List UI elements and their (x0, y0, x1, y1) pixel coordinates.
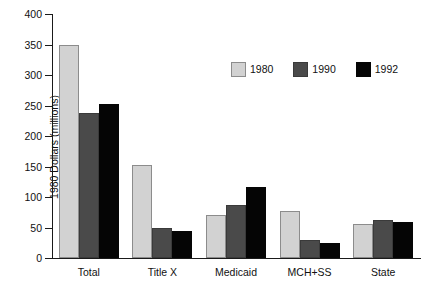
legend-swatch (231, 62, 246, 77)
bar (300, 240, 320, 258)
y-tick-mark (45, 258, 52, 259)
bar-group (199, 14, 273, 258)
y-tick-mark (45, 167, 52, 168)
bar (246, 187, 266, 258)
x-axis-label: Title X (148, 266, 177, 278)
bar-chart: 1980 Dollars (millions) 0501001502002503… (0, 0, 427, 294)
y-tick-mark (45, 228, 52, 229)
legend-label: 1990 (312, 64, 335, 75)
bar-group (346, 14, 420, 258)
chart-legend: 198019901992 (231, 62, 398, 77)
bar (353, 224, 373, 258)
bar (206, 215, 226, 258)
legend-label: 1980 (250, 64, 273, 75)
y-tick-mark (45, 14, 52, 15)
bar (226, 205, 246, 258)
y-tick-mark (45, 45, 52, 46)
legend-item: 1990 (293, 62, 335, 77)
bar (152, 228, 172, 259)
y-tick-label: 200 (24, 131, 42, 142)
bar (132, 165, 152, 258)
bar (99, 104, 119, 258)
legend-label: 1992 (375, 64, 398, 75)
bar (393, 222, 413, 258)
bar-group (52, 14, 126, 258)
bar (280, 211, 300, 258)
bar (79, 113, 99, 258)
plot-area: 050100150200250300350400 (52, 14, 420, 258)
y-tick-label: 350 (24, 39, 42, 50)
y-tick-mark (45, 197, 52, 198)
y-tick-label: 100 (24, 192, 42, 203)
legend-item: 1992 (356, 62, 398, 77)
x-axis-line (52, 258, 421, 259)
bar (320, 243, 340, 258)
bar (172, 231, 192, 258)
legend-swatch (356, 62, 371, 77)
x-axis-label: State (371, 266, 396, 278)
bar-group (273, 14, 347, 258)
y-tick-mark (45, 75, 52, 76)
legend-swatch (293, 62, 308, 77)
x-axis-label: Medicaid (215, 266, 257, 278)
y-tick-mark (45, 106, 52, 107)
y-tick-label: 400 (24, 9, 42, 20)
y-tick-label: 300 (24, 70, 42, 81)
legend-item: 1980 (231, 62, 273, 77)
x-axis-label: Total (78, 266, 100, 278)
y-tick-label: 250 (24, 100, 42, 111)
y-tick-label: 50 (30, 222, 42, 233)
bar (373, 220, 393, 258)
x-axis-label: MCH+SS (288, 266, 332, 278)
bar-groups (52, 14, 420, 258)
y-tick-label: 0 (36, 253, 42, 264)
bar-group (126, 14, 200, 258)
y-tick-label: 150 (24, 161, 42, 172)
bar (59, 45, 79, 259)
y-tick-mark (45, 136, 52, 137)
